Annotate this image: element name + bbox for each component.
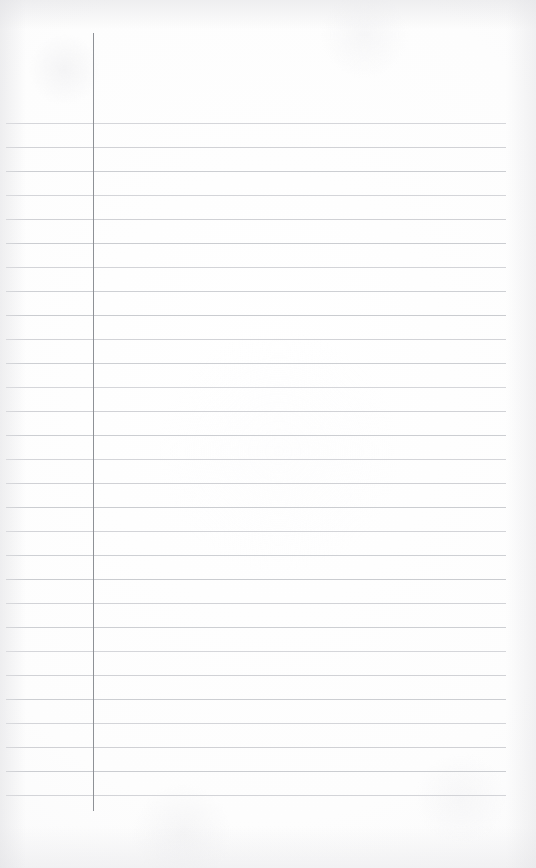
notebook-page: [0, 0, 536, 868]
margin-rule-line: [93, 33, 94, 811]
paper-sheet: [0, 0, 536, 868]
